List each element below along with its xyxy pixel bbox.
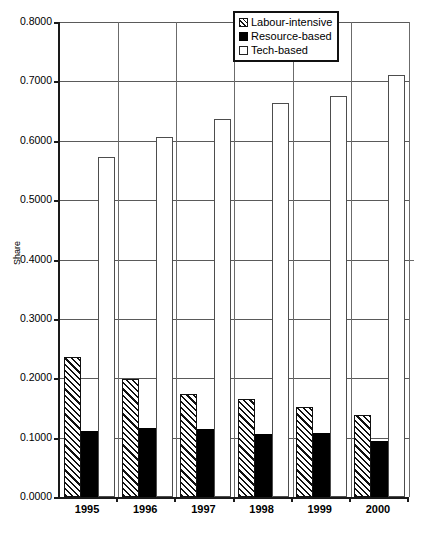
bar: [272, 103, 289, 497]
x-axis-tick-label: 2000: [349, 503, 407, 515]
legend-item: Labour-intensive: [239, 15, 332, 29]
bar-group: [235, 22, 293, 497]
legend-item-label: Resource-based: [251, 30, 332, 42]
bar-group: [60, 22, 118, 497]
x-axis-tick-mark: [291, 497, 293, 502]
x-axis-tick-mark: [174, 497, 176, 502]
bar: [64, 357, 81, 497]
x-axis-tick-label: 1998: [233, 503, 291, 515]
bar: [371, 441, 388, 497]
bar: [180, 394, 197, 497]
group-separator: [409, 22, 410, 497]
y-axis-tick-mark: [54, 497, 60, 499]
bar-group: [293, 22, 351, 497]
x-axis-tick-label: 1999: [291, 503, 349, 515]
hatched-square-icon: [239, 18, 248, 27]
y-axis-tick-label: 0.5000: [6, 194, 52, 205]
y-axis-tick-label: 0.3000: [6, 313, 52, 324]
filled-square-icon: [239, 32, 248, 41]
bar: [238, 399, 255, 497]
x-axis-tick-mark: [233, 497, 235, 502]
bar: [296, 407, 313, 497]
bar: [156, 137, 173, 497]
bar: [354, 415, 371, 497]
legend-item-label: Tech-based: [251, 44, 308, 56]
y-axis-tick-label: 0.1000: [6, 432, 52, 443]
x-axis-tick-label: 1997: [174, 503, 232, 515]
x-axis-tick-label: 1995: [58, 503, 116, 515]
y-axis-tick-label: 0.8000: [6, 16, 52, 27]
x-axis-tick-label: 1996: [116, 503, 174, 515]
y-axis-tick-label: 0.0000: [6, 491, 52, 502]
empty-square-icon: [239, 46, 248, 55]
x-axis-tick-mark: [116, 497, 118, 502]
legend-item: Tech-based: [239, 43, 332, 57]
bar: [139, 428, 156, 497]
bar: [122, 379, 139, 497]
bar: [255, 434, 272, 497]
y-axis-tick-label: 0.4000: [6, 254, 52, 265]
bar-group: [351, 22, 409, 497]
bar: [330, 96, 347, 497]
bar-chart: Share 0.80000.70000.60000.50000.40000.30…: [0, 0, 422, 539]
x-axis-tick-mark: [349, 497, 351, 502]
bar: [197, 429, 214, 497]
bar-groups: [60, 22, 409, 497]
bar: [388, 75, 405, 497]
bar-group: [118, 22, 176, 497]
y-axis-tick-labels: 0.80000.70000.60000.50000.40000.30000.20…: [0, 0, 52, 539]
legend: Labour-intensiveResource-basedTech-based: [233, 11, 339, 62]
y-axis-tick-label: 0.7000: [6, 75, 52, 86]
bar: [98, 157, 115, 497]
bar-group: [176, 22, 234, 497]
legend-item: Resource-based: [239, 29, 332, 43]
bar: [214, 119, 231, 497]
y-axis-tick-label: 0.6000: [6, 135, 52, 146]
bar: [81, 431, 98, 497]
plot-area: [58, 22, 409, 499]
bar: [313, 433, 330, 497]
x-axis-tick-labels: 199519961997199819992000: [58, 503, 407, 527]
x-axis-tick-mark: [407, 497, 409, 502]
legend-item-label: Labour-intensive: [251, 16, 332, 28]
y-axis-tick-label: 0.2000: [6, 372, 52, 383]
